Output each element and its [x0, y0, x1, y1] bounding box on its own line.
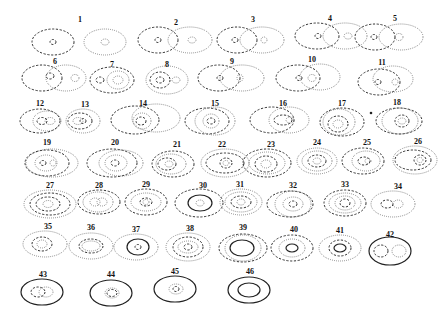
configuration-14: 14: [111, 99, 180, 134]
dashed-ellipse: [274, 115, 292, 125]
configuration-22: 22: [201, 140, 249, 177]
configuration-label: 8: [165, 60, 169, 69]
solid-ellipse: [21, 279, 63, 305]
stray-mark: [370, 112, 373, 115]
dotted-ellipse: [69, 233, 113, 259]
configuration-12: 12: [20, 99, 61, 133]
configuration-3: 3: [217, 15, 284, 53]
solid-ellipse: [238, 283, 260, 297]
configuration-15: 15: [185, 99, 235, 135]
dotted-ellipse: [101, 39, 109, 45]
dashed-ellipse: [138, 27, 178, 53]
dotted-ellipse: [84, 29, 126, 55]
configuration-46: 46: [228, 267, 270, 303]
configuration-grid: 1234567891011121314151617181920212223242…: [20, 14, 437, 306]
dotted-ellipse: [261, 37, 267, 43]
configuration-8: 8: [146, 60, 188, 94]
dotted-ellipse: [249, 152, 285, 174]
dotted-ellipse: [131, 193, 161, 211]
dashed-ellipse: [37, 118, 47, 125]
configuration-7: 7: [90, 60, 134, 93]
dashed-ellipse: [32, 29, 74, 55]
dashed-ellipse: [376, 108, 422, 134]
configuration-16: 16: [250, 99, 309, 133]
ellipse-configuration-diagram: 1234567891011121314151617181920212223242…: [0, 0, 447, 321]
dotted-ellipse: [220, 65, 264, 91]
dashed-ellipse: [32, 237, 52, 251]
dotted-ellipse: [203, 114, 219, 128]
configuration-17: 17: [320, 99, 364, 136]
configuration-35: 35: [23, 222, 67, 257]
dashed-ellipse: [320, 108, 364, 136]
dotted-ellipse: [392, 79, 398, 85]
configuration-18: 18: [376, 98, 422, 134]
configuration-44: 44: [90, 270, 132, 306]
dashed-ellipse: [219, 234, 267, 262]
dashed-ellipse: [315, 34, 321, 39]
dotted-ellipse: [308, 75, 316, 82]
dotted-ellipse: [169, 284, 183, 294]
configuration-label: 30: [199, 181, 207, 190]
dotted-ellipse: [225, 192, 257, 212]
dotted-ellipse: [50, 160, 56, 166]
dotted-ellipse: [283, 197, 303, 211]
dotted-ellipse: [83, 192, 113, 212]
dotted-ellipse: [323, 109, 355, 135]
dashed-ellipse: [358, 69, 400, 95]
configuration-10: 10: [276, 55, 340, 91]
configuration-31: 31: [220, 180, 262, 215]
configuration-label: 31: [236, 180, 244, 189]
dashed-ellipse: [78, 190, 120, 214]
dashed-ellipse: [31, 287, 45, 297]
solid-ellipse: [334, 244, 346, 252]
configuration-label: 3: [251, 15, 255, 24]
configuration-label: 13: [81, 100, 89, 109]
configuration-40: 40: [271, 225, 313, 261]
dashed-ellipse: [255, 156, 277, 172]
dotted-ellipse: [286, 117, 294, 123]
dotted-ellipse: [237, 199, 245, 205]
dashed-ellipse: [342, 148, 384, 174]
dotted-ellipse: [99, 150, 143, 176]
dashed-ellipse: [206, 153, 244, 173]
configuration-39: 39: [219, 223, 267, 262]
configuration-45: 45: [154, 267, 196, 302]
dotted-ellipse: [71, 75, 79, 82]
configuration-label: 7: [110, 60, 114, 69]
dotted-ellipse: [323, 23, 367, 49]
configuration-label: 27: [46, 181, 54, 190]
dotted-ellipse: [382, 108, 418, 134]
configuration-label: 26: [414, 137, 422, 146]
dotted-ellipse: [46, 65, 86, 91]
solid-ellipse: [369, 237, 411, 265]
configuration-26: 26: [393, 137, 437, 174]
configuration-1: 1: [32, 15, 126, 55]
dashed-ellipse: [173, 287, 179, 292]
solid-ellipse: [90, 280, 132, 306]
dashed-ellipse: [156, 77, 164, 83]
dotted-ellipse: [220, 189, 262, 215]
dotted-ellipse: [379, 24, 423, 50]
dotted-ellipse: [279, 239, 305, 257]
dotted-ellipse: [114, 234, 158, 260]
configuration-38: 38: [166, 224, 210, 261]
dashed-ellipse: [276, 65, 320, 91]
dotted-ellipse: [146, 66, 188, 94]
dashed-ellipse: [50, 40, 56, 45]
dotted-ellipse: [196, 200, 204, 206]
configuration-36: 36: [69, 223, 113, 259]
configuration-label: 6: [53, 57, 57, 66]
dotted-ellipse: [297, 148, 337, 174]
solid-ellipse: [230, 240, 254, 256]
configuration-20: 20: [87, 138, 143, 177]
dotted-ellipse: [165, 161, 173, 167]
configuration-23: 23: [243, 140, 291, 177]
dashed-ellipse: [173, 237, 203, 257]
dotted-ellipse: [302, 151, 332, 171]
dotted-ellipse: [133, 113, 151, 129]
dotted-ellipse: [395, 34, 403, 41]
dotted-ellipse: [37, 240, 47, 248]
dotted-ellipse: [26, 149, 78, 177]
solid-ellipse: [127, 239, 149, 255]
configuration-25: 25: [342, 138, 384, 174]
